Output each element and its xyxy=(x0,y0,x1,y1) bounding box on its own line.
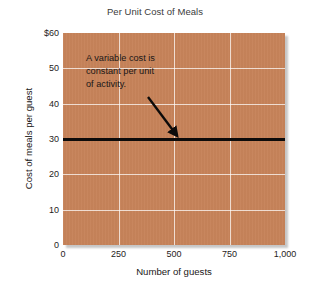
x-tick-750: 750 xyxy=(222,249,237,259)
y-tick-60: $60 xyxy=(17,28,59,38)
x-axis-ticks: 0 250 500 750 1,000 xyxy=(63,249,285,263)
plot-area: A variable cost is constant per unit of … xyxy=(63,33,285,245)
x-tick-1000: 1,000 xyxy=(274,249,297,259)
chart-figure: Per Unit Cost of Meals A variable cost i… xyxy=(0,0,310,294)
x-tick-500: 500 xyxy=(166,249,181,259)
annotation-arrow-icon xyxy=(63,33,285,245)
x-tick-250: 250 xyxy=(111,249,126,259)
y-axis-ticks: $60 50 40 30 20 10 0 xyxy=(14,33,59,245)
y-axis-title: Cost of meals per guest xyxy=(23,59,34,219)
chart-title: Per Unit Cost of Meals xyxy=(0,6,310,17)
y-tick-0: 0 xyxy=(17,240,59,250)
x-axis-title: Number of guests xyxy=(63,266,285,277)
x-tick-0: 0 xyxy=(60,249,65,259)
